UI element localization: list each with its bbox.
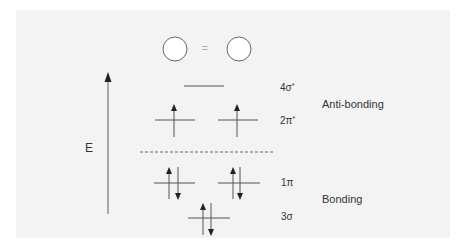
- energy-axis-arrow-icon: [105, 72, 112, 214]
- atomic-orbital-right-icon: [227, 37, 251, 61]
- spin-up-arrow-icon: [200, 203, 206, 210]
- group-label-antibonding: Anti-bonding: [322, 99, 384, 110]
- equals-sign: =: [202, 44, 208, 54]
- orbital-label-1pi: 1π: [281, 178, 293, 188]
- orbital-label-2pi-star: 2π*: [280, 115, 295, 126]
- orbital-1pi: [154, 167, 260, 200]
- orbital-label-4sigma-star: 4σ*: [280, 82, 294, 93]
- spin-up-arrow-icon: [230, 167, 236, 174]
- atomic-orbital-left-icon: [163, 37, 187, 61]
- spin-down-arrow-icon: [208, 229, 214, 236]
- energy-axis-label: E: [85, 142, 93, 154]
- spin-up-arrow-icon: [234, 104, 240, 111]
- spin-down-arrow-icon: [175, 193, 181, 200]
- mo-diagram: [0, 0, 463, 252]
- spin-up-arrow-icon: [166, 167, 172, 174]
- orbital-3sigma: [188, 203, 230, 236]
- spin-up-arrow-icon: [171, 104, 177, 111]
- spin-down-arrow-icon: [237, 193, 243, 200]
- orbital-2pi-star: [155, 104, 258, 137]
- group-label-bonding: Bonding: [322, 194, 362, 205]
- orbital-label-3sigma: 3σ: [281, 212, 293, 222]
